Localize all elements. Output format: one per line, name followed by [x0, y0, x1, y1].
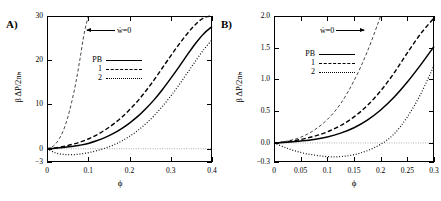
legend-row: 1 [76, 65, 142, 73]
x-tickmark [47, 157, 48, 162]
y-tickmark [47, 60, 52, 61]
panel-b: B) β ΔP/2nₕ 2.01.51.00.50.0−0.300.050.10… [216, 0, 436, 201]
x-tickmark [212, 157, 213, 162]
panel-a-legend: PB 1 2 [76, 56, 142, 83]
x-tickmark [354, 157, 355, 162]
y-tickmark-right [207, 104, 212, 105]
figure-two-panel-pressure-plots: A) β ΔP/2nₕ 3020100−300.10.20.30.4 PB 1 … [0, 0, 441, 201]
x-tick-label: 0.25 [393, 166, 421, 175]
y-tick-label: 0 [15, 144, 43, 153]
arrow-left-icon [87, 30, 115, 31]
x-tickmark-top [434, 16, 435, 21]
legend-row: PB [289, 50, 355, 58]
legend-line-solid [319, 51, 355, 57]
y-tick-label: −0.3 [242, 157, 270, 166]
x-tickmark [171, 157, 172, 162]
x-tick-label: 0.3 [157, 166, 185, 175]
y-tick-label: 30 [15, 11, 43, 20]
curve-PB [47, 27, 212, 149]
x-tickmark [381, 157, 382, 162]
y-tick-label: 10 [15, 99, 43, 108]
legend-key: PB [289, 50, 319, 58]
y-tickmark [47, 149, 52, 150]
y-tick-label: 1.5 [242, 43, 270, 52]
x-tickmark [88, 157, 89, 162]
y-tickmark [47, 162, 52, 163]
legend-row: 1 [289, 59, 355, 67]
legend-line-solid [106, 57, 142, 63]
y-tickmark-right [429, 111, 434, 112]
y-tick-label: 20 [15, 55, 43, 64]
panel-b-annotation: ẇ=0 [320, 26, 364, 35]
x-tick-label: 0 [260, 166, 288, 175]
panel-a-xlabel: ϕ [100, 178, 140, 188]
curve-1 [274, 18, 434, 143]
legend-line-dotted [319, 69, 355, 75]
legend-key: 1 [289, 59, 319, 67]
legend-key: 1 [76, 65, 106, 73]
curve-psi-dot-zero [274, 16, 381, 143]
x-tickmark [274, 157, 275, 162]
x-tickmark-top [274, 16, 275, 21]
panel-a-annotation: ẇ=0 [87, 26, 131, 35]
x-tick-label: 0 [33, 166, 61, 175]
x-tickmark [434, 157, 435, 162]
y-tickmark-right [429, 48, 434, 49]
y-tickmark [274, 111, 279, 112]
x-tick-label: 0.05 [287, 166, 315, 175]
y-tickmark [47, 104, 52, 105]
x-tickmark-top [88, 16, 89, 21]
panel-b-annotation-text: ẇ=0 [320, 26, 334, 35]
panel-a: A) β ΔP/2nₕ 3020100−300.10.20.30.4 PB 1 … [0, 0, 220, 201]
y-tickmark-right [429, 79, 434, 80]
legend-key: PB [76, 56, 106, 64]
x-tick-label: 0.3 [420, 166, 441, 175]
x-tickmark-top [354, 16, 355, 21]
legend-key: 2 [76, 74, 106, 82]
x-tickmark [301, 157, 302, 162]
legend-line-dotted [106, 75, 142, 81]
y-tickmark [274, 143, 279, 144]
y-tickmark-right [429, 143, 434, 144]
x-tick-label: 0.2 [367, 166, 395, 175]
x-tickmark-top [47, 16, 48, 21]
x-tickmark-top [212, 16, 213, 21]
x-tickmark-top [301, 16, 302, 21]
y-tick-label: 2.0 [242, 11, 270, 20]
x-tickmark [407, 157, 408, 162]
y-tickmark [274, 79, 279, 80]
legend-row: 2 [289, 68, 355, 76]
x-tick-label: 0.1 [74, 166, 102, 175]
panel-a-annotation-text: ẇ=0 [117, 26, 131, 35]
legend-line-dashed [106, 66, 142, 72]
x-tickmark-top [130, 16, 131, 21]
y-tick-label: 0.5 [242, 106, 270, 115]
y-tick-label: 1.0 [242, 74, 270, 83]
y-tickmark [274, 48, 279, 49]
x-tickmark [327, 157, 328, 162]
legend-row: PB [76, 56, 142, 64]
y-tickmark-right [207, 149, 212, 150]
x-tickmark-top [407, 16, 408, 21]
y-tickmark-right [207, 162, 212, 163]
x-tick-label: 0.2 [116, 166, 144, 175]
x-tick-label: 0.1 [313, 166, 341, 175]
y-tickmark-right [207, 60, 212, 61]
panel-b-xlabel: ϕ [334, 178, 374, 188]
x-tickmark-top [171, 16, 172, 21]
y-tick-label: 0.0 [242, 138, 270, 147]
legend-key: 2 [289, 68, 319, 76]
x-tickmark [130, 157, 131, 162]
x-tick-label: 0.15 [340, 166, 368, 175]
panel-b-legend: PB 1 2 [289, 50, 355, 77]
legend-row: 2 [76, 74, 142, 82]
y-tickmark [274, 162, 279, 163]
x-tickmark-top [327, 16, 328, 21]
legend-line-dashed [319, 60, 355, 66]
arrow-right-icon [336, 30, 364, 31]
y-tickmark-right [429, 162, 434, 163]
y-tick-label: −3 [15, 157, 43, 166]
x-tickmark-top [381, 16, 382, 21]
